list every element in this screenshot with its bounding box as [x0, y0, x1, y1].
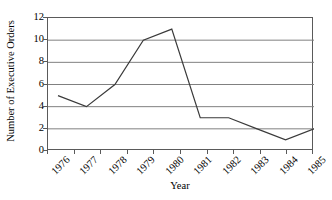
y-tick-label: 8: [22, 56, 44, 66]
y-tick-label: 12: [22, 12, 44, 22]
x-axis-title: Year: [47, 180, 313, 192]
y-tick-label: 2: [22, 123, 44, 133]
y-tick-label: 10: [22, 34, 44, 44]
y-axis-tick-labels: 024681012: [20, 0, 44, 200]
y-tick-label: 6: [22, 79, 44, 89]
plot-svg: [48, 18, 314, 151]
plot-area: [47, 17, 313, 150]
y-tick-label: 0: [22, 145, 44, 155]
gridlines: [48, 40, 314, 129]
y-tick-label: 4: [22, 101, 44, 111]
y-axis-title: Number of Executive Orders: [4, 6, 18, 156]
executive-orders-line-chart: Number of Executive Orders 024681012 197…: [0, 0, 332, 200]
x-axis-tick-labels: 1976197719781979198019811982198319841985: [47, 154, 313, 182]
